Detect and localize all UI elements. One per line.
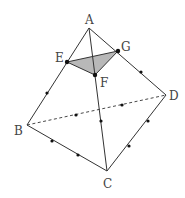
label-d: D (169, 89, 179, 103)
edge-bc (27, 125, 107, 171)
label-f: F (100, 76, 108, 90)
label-g: G (121, 40, 131, 54)
division-point-dot (99, 119, 102, 122)
tetrahedron-diagram: ABCDEFG (0, 0, 185, 198)
division-point-dot (74, 113, 77, 116)
edge-ac (89, 28, 107, 171)
division-point-dot (76, 153, 79, 156)
division-point-dot (50, 139, 53, 142)
diagram-canvas: ABCDEFG (0, 0, 185, 198)
edge-ab (27, 28, 89, 125)
point-g-dot (116, 49, 120, 53)
label-c: C (103, 177, 112, 191)
division-point-dot (45, 91, 48, 94)
division-point-dot (127, 144, 130, 147)
label-e: E (55, 51, 64, 65)
hidden-edge-bd (27, 95, 166, 125)
point-e-dot (65, 60, 69, 64)
edge-cd (107, 95, 166, 171)
division-point-dot (146, 119, 149, 122)
point-f-dot (93, 73, 97, 77)
division-point-dot (120, 103, 123, 106)
label-a: A (84, 13, 94, 27)
label-b: B (14, 124, 23, 138)
division-point-dot (139, 70, 142, 73)
